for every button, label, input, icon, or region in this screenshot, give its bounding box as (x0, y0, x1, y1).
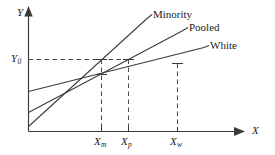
x-tick-label-xp-subscript: p (128, 140, 132, 149)
series-label-pooled: Pooled (189, 22, 220, 33)
regression-lines-figure: Y X Y0 Xm Xp Xw Minority Pooled White (0, 0, 275, 155)
x-tick-label-xm-subscript: m (101, 140, 106, 149)
x-tick-label-xm: Xm (94, 136, 106, 147)
y0-tick-label-subscript: 0 (17, 57, 21, 66)
y0-tick-label: Y0 (11, 53, 21, 64)
x-tick-label-xm-base: X (94, 135, 101, 147)
x-axis-ticks-group (102, 127, 178, 132)
x-axis-label: X (252, 125, 259, 136)
x-tick-label-xp-base: X (121, 135, 128, 147)
x-tick-label-xp: Xp (121, 136, 131, 147)
y-axis-arrow-icon (24, 6, 32, 17)
leader-line-minority (147, 15, 152, 19)
series-line-minority (29, 19, 148, 127)
series-line-pooled (29, 31, 184, 113)
leader-line-white (204, 46, 209, 48)
y-axis-label: Y (17, 7, 23, 18)
leader-line-pooled (183, 28, 188, 31)
series-label-white: White (210, 40, 237, 51)
x-tick-label-xw-base: X (170, 135, 177, 147)
x-tick-label-xw-subscript: w (177, 140, 182, 149)
series-label-minority: Minority (153, 9, 192, 20)
x-axis-arrow-icon (234, 127, 245, 136)
x-tick-label-xw: Xw (170, 136, 182, 147)
figure-canvas (0, 0, 275, 155)
series-line-white (29, 48, 205, 92)
intersection-ticks-group (96, 60, 183, 75)
